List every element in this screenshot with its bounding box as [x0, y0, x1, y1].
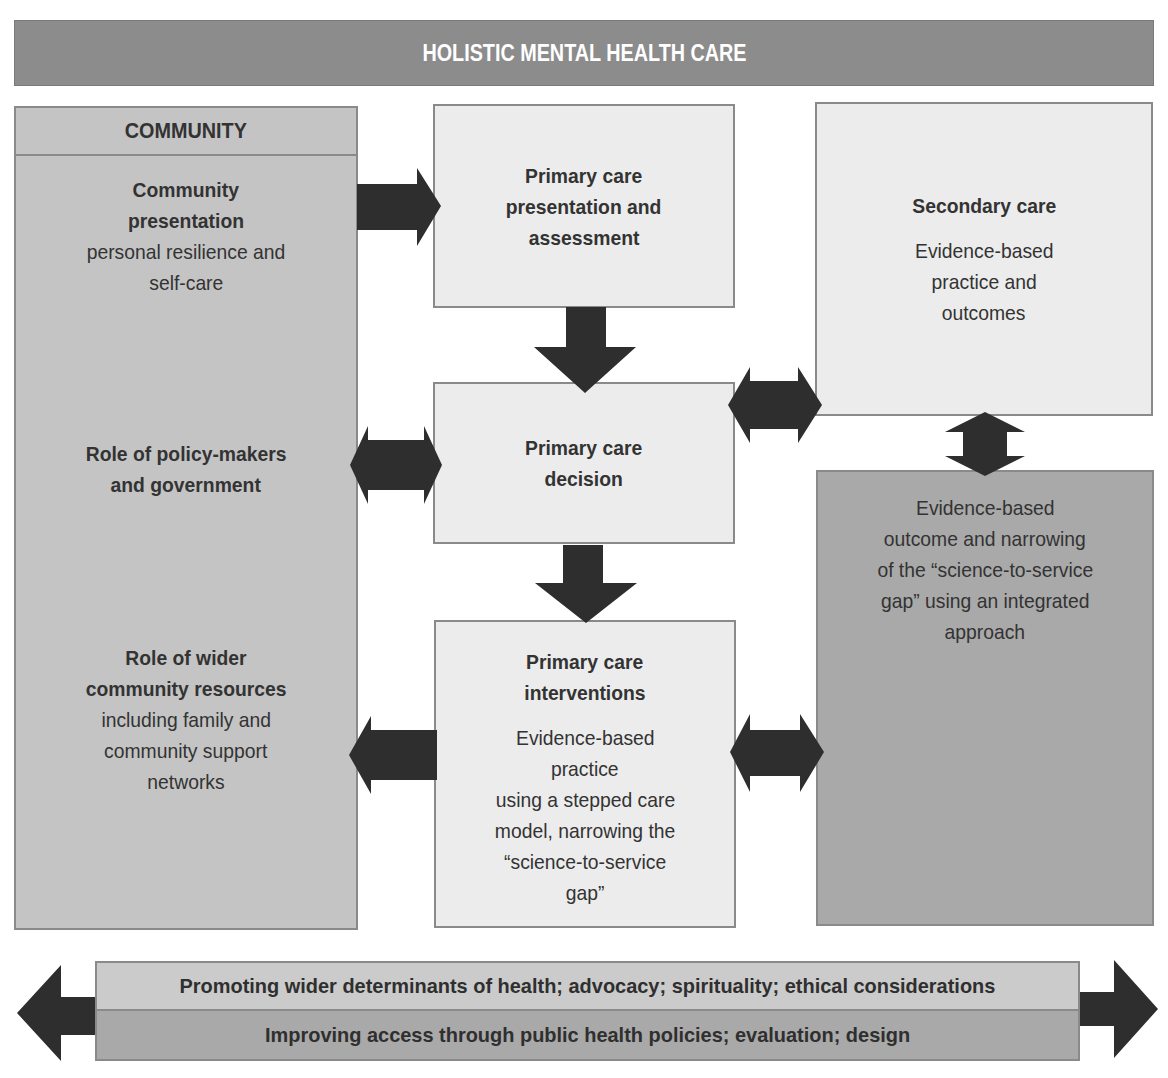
secondary-care-box: Secondary care Evidence-based practice a… [815, 102, 1153, 416]
bottom-bar-row2-text: Improving access through public health p… [265, 1023, 910, 1047]
pc-interventions-body-1: Evidence-based [516, 722, 655, 753]
double-arrow-vertical-icon [945, 412, 1025, 476]
bottom-left-arrow-icon [17, 965, 99, 1061]
arrow-down-icon [534, 307, 636, 393]
community-header: COMMUNITY [16, 108, 356, 156]
pc-interventions-body-2: practice [551, 753, 619, 784]
primary-care-decision-box: Primary care decision [433, 382, 735, 544]
community-presentation-title-1: Community [133, 174, 239, 205]
pc-interventions-body-4: model, narrowing the [495, 815, 675, 846]
pc-interventions-title-2: interventions [524, 677, 645, 708]
wider-community-body-2: community support [104, 735, 267, 766]
secondary-care-body-2: practice and [931, 266, 1036, 297]
arrow-down-icon [535, 545, 637, 623]
wider-community-body-3: networks [147, 766, 224, 797]
evidence-outcome-box: Evidence-based outcome and narrowing of … [816, 470, 1154, 926]
community-box: COMMUNITY Community presentation persona… [14, 106, 358, 930]
wider-community-title-2: community resources [86, 673, 287, 704]
double-arrow-horizontal-icon [350, 426, 442, 504]
bottom-bar-promoting: Promoting wider determinants of health; … [95, 961, 1080, 1011]
evidence-outcome-body-1: Evidence-based [916, 492, 1055, 523]
pc-presentation-title-2: presentation and [506, 191, 662, 222]
evidence-outcome-body-2: outcome and narrowing [884, 523, 1086, 554]
bottom-bar-row1-text: Promoting wider determinants of health; … [180, 974, 996, 998]
wider-community-body-1: including family and [101, 704, 271, 735]
pc-interventions-title-1: Primary care [526, 646, 643, 677]
title-banner: HOLISTIC MENTAL HEALTH CARE [14, 20, 1154, 86]
primary-care-interventions-box: Primary care interventions Evidence-base… [434, 620, 736, 928]
policy-makers-title-1: Role of policy-makers [86, 438, 287, 469]
pc-decision-title-1: Primary care [525, 432, 642, 463]
community-presentation-title-2: presentation [128, 205, 244, 236]
secondary-care-body-1: Evidence-based [915, 235, 1054, 266]
community-presentation-body-2: self-care [149, 267, 223, 298]
primary-care-presentation-box: Primary care presentation and assessment [433, 104, 735, 308]
community-presentation-body-1: personal resilience and [87, 236, 286, 267]
double-arrow-horizontal-icon [728, 367, 822, 443]
arrow-right-icon [357, 168, 441, 248]
double-arrow-horizontal-icon [730, 714, 824, 792]
pc-decision-title-2: decision [545, 463, 623, 494]
wider-community-title-1: Role of wider [125, 642, 246, 673]
evidence-outcome-body-3: of the “science-to-service [877, 554, 1093, 585]
wider-community-section: Role of wider community resources includ… [16, 642, 356, 797]
secondary-care-title: Secondary care [912, 190, 1056, 221]
community-header-label: COMMUNITY [125, 118, 247, 144]
policy-makers-section: Role of policy-makers and government [16, 438, 356, 500]
bottom-bar-improving: Improving access through public health p… [95, 1009, 1080, 1061]
community-presentation-section: Community presentation personal resilien… [16, 174, 356, 298]
bottom-right-arrow-icon [1078, 960, 1158, 1058]
arrow-left-icon [349, 716, 437, 794]
diagram-title: HOLISTIC MENTAL HEALTH CARE [422, 40, 746, 67]
secondary-care-body-3: outcomes [942, 297, 1026, 328]
evidence-outcome-body-4: gap” using an integrated [881, 585, 1089, 616]
pc-interventions-body-3: using a stepped care [495, 784, 674, 815]
pc-interventions-body-6: gap” [566, 877, 605, 908]
pc-presentation-title-1: Primary care [525, 160, 642, 191]
evidence-outcome-body-5: approach [945, 616, 1026, 647]
pc-presentation-title-3: assessment [529, 222, 640, 253]
policy-makers-title-2: and government [111, 469, 261, 500]
pc-interventions-body-5: “science-to-service [504, 846, 666, 877]
